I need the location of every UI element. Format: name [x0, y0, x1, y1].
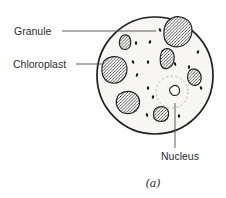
chloroplast-shape [116, 91, 139, 113]
cell-diagram-figure: Granule Chloroplast Nucleus (a) [0, 0, 226, 198]
granule-dot [147, 60, 149, 64]
figure-caption: (a) [145, 177, 160, 190]
chloroplast-shape [154, 107, 169, 122]
chloroplast-shape [119, 35, 130, 50]
granule-dot [178, 114, 180, 118]
nucleus-label: Nucleus [161, 150, 199, 162]
granule-dot [147, 86, 149, 90]
chloroplast-shape [160, 49, 174, 69]
granule-label: Granule [14, 25, 52, 37]
cell-diagram: Granule Chloroplast Nucleus (a) [0, 0, 226, 198]
chloroplast-shape [164, 17, 192, 47]
cell-shape-layer [62, 17, 213, 148]
chloroplast-shape [102, 57, 127, 84]
granule-dot [135, 41, 137, 45]
nucleus-shape [170, 85, 180, 95]
chloroplast-shape [188, 69, 202, 85]
chloroplast-label: Chloroplast [13, 58, 66, 70]
granule-dot [188, 65, 190, 69]
